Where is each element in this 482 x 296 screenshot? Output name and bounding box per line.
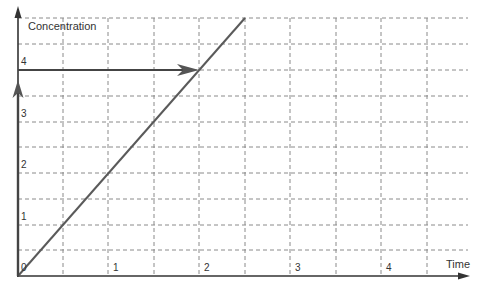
x-tick-3: 3 <box>295 262 301 273</box>
concentration-time-chart: Concentration Time 0 1 2 3 4 1 2 3 4 <box>0 0 482 296</box>
y-tick-3: 3 <box>21 108 27 119</box>
x-tick-1: 1 <box>113 262 119 273</box>
y-tick-4: 4 <box>21 56 27 67</box>
y-tick-0: 0 <box>21 262 27 273</box>
x-axis-label: Time <box>446 258 470 270</box>
y-axis-label: Concentration <box>28 20 97 32</box>
y-tick-2: 2 <box>21 159 27 170</box>
y-tick-1: 1 <box>21 211 27 222</box>
x-axis-arrow-icon <box>458 273 470 280</box>
grid <box>18 18 468 276</box>
x-tick-4: 4 <box>386 262 392 273</box>
axes <box>15 6 471 280</box>
x-tick-2: 2 <box>204 262 210 273</box>
y-axis-arrow-icon <box>15 6 22 18</box>
